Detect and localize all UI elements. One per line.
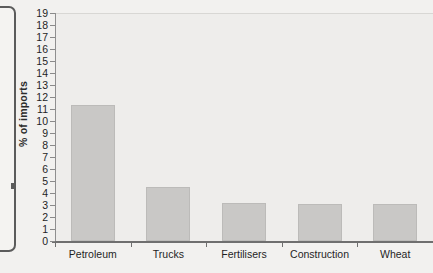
bar-chart-figure: % of imports 012345678910111213141516171… [0, 0, 433, 273]
y-axis-tick-mark [50, 157, 55, 158]
y-axis-tick-value: 0 [42, 236, 48, 247]
y-axis-tick-mark [50, 13, 55, 14]
x-axis-tick-mark [282, 241, 283, 247]
y-axis-tick-label: 0 [26, 235, 48, 247]
y-axis-tick-mark [50, 25, 55, 26]
y-axis-tick-label: 11 [26, 103, 48, 115]
x-axis-tick-mark [55, 241, 56, 247]
y-axis-tick-value: 10 [36, 116, 48, 127]
x-axis-label-wheat: Wheat [357, 248, 433, 260]
y-axis-tick-mark [50, 121, 55, 122]
x-axis-tick-mark [357, 241, 358, 247]
y-axis-tick-value: 8 [42, 140, 48, 151]
x-axis-tick-mark [131, 241, 132, 247]
y-axis-tick-value: 11 [37, 104, 48, 115]
y-axis-tick-value: 17 [36, 32, 48, 43]
y-axis-tick-label: 2 [26, 211, 48, 223]
y-axis-tick-mark [50, 217, 55, 218]
y-axis-tick-value: 19 [36, 8, 48, 19]
y-axis-tick-label: 5 [26, 175, 48, 187]
y-axis-tick-mark [50, 181, 55, 182]
y-axis-tick-value: 5 [42, 176, 48, 187]
y-axis-tick-value: 4 [42, 188, 48, 199]
y-axis-tick-mark [50, 85, 55, 86]
x-axis-tick-mark [206, 241, 207, 247]
y-axis-tick-mark [50, 229, 55, 230]
y-axis-tick-label: 3 [26, 199, 48, 211]
y-axis-tick-label: 7 [26, 151, 48, 163]
y-axis-tick-label: 14 [26, 67, 48, 79]
y-axis-tick-label: 9 [26, 127, 48, 139]
y-axis-tick-mark [50, 37, 55, 38]
y-axis-tick-mark [50, 193, 55, 194]
bar-petroleum [71, 105, 115, 241]
y-axis-tick-label: 17 [26, 31, 48, 43]
x-axis-line [52, 241, 433, 243]
y-axis-tick-value: 12 [36, 92, 48, 103]
y-axis-tick-mark [50, 97, 55, 98]
y-axis-tick-mark [50, 133, 55, 134]
x-axis-label-petroleum: Petroleum [55, 248, 131, 260]
y-axis-tick-label: 10 [26, 115, 48, 127]
y-axis-tick-value: 3 [42, 200, 48, 211]
y-axis-tick-label: 6 [26, 163, 48, 175]
x-axis-label-trucks: Trucks [131, 248, 207, 260]
y-axis-tick-mark [50, 61, 55, 62]
y-axis-tick-value: 1 [42, 224, 48, 235]
y-axis-tick-mark [50, 205, 55, 206]
y-axis-tick-mark [50, 109, 55, 110]
y-axis-tick-label: 8 [26, 139, 48, 151]
y-axis-tick-value: 13 [36, 80, 48, 91]
y-axis-tick-label: 4 [26, 187, 48, 199]
y-axis-tick-label: 18 [26, 19, 48, 31]
bar-wheat [373, 204, 417, 241]
y-axis-tick-label: 12 [26, 91, 48, 103]
y-axis-tick-mark [50, 145, 55, 146]
bar-fertilisers [222, 203, 266, 241]
y-axis-tick-label: 1 [26, 223, 48, 235]
y-axis-tick-mark [50, 49, 55, 50]
y-axis-tick-labels: 012345678910111213141516171819 [26, 8, 48, 246]
y-axis-line [55, 13, 56, 242]
y-axis-tick-value: 14 [36, 68, 48, 79]
bar-trucks [146, 187, 190, 241]
y-axis-tick-mark [50, 169, 55, 170]
bar-construction [298, 204, 342, 241]
y-axis-tick-mark [50, 73, 55, 74]
y-axis-tick-value: 6 [42, 164, 48, 175]
y-axis-tick-value: 16 [36, 44, 48, 55]
y-axis-tick-value: 2 [42, 212, 48, 223]
y-axis-tick-value: 18 [36, 20, 48, 31]
y-axis-tick-label: 15 [26, 55, 48, 67]
y-axis-tick-label: 16 [26, 43, 48, 55]
y-axis-tick-value: 9 [42, 128, 48, 139]
y-axis-tick-label: 19 [26, 7, 48, 19]
y-axis-tick-label: 13 [26, 79, 48, 91]
y-axis-tick-value: 7 [42, 152, 48, 163]
y-axis-tick-value: 15 [36, 56, 48, 67]
x-axis-label-fertilisers: Fertilisers [206, 248, 282, 260]
x-axis-label-construction: Construction [282, 248, 358, 260]
